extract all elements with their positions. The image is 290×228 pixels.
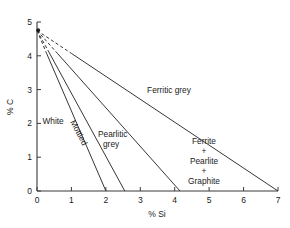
y-tick-label-3: 3 — [27, 85, 32, 95]
y-tick-label-1: 1 — [27, 152, 32, 162]
region-label-pearlite: Pearlite — [190, 156, 219, 166]
y-axis-title: % C — [5, 99, 15, 115]
y-axis-ticks — [37, 22, 41, 191]
x-tick-label-1: 1 — [69, 195, 74, 205]
region-label-mottled: Mottled — [68, 118, 90, 147]
region-label-pearlitic-grey-line1: Pearlitic — [98, 129, 128, 139]
region-label-white: White — [43, 116, 65, 126]
boundary-line-ferritic-outer — [71, 53, 278, 191]
x-tick-label-4: 4 — [172, 195, 177, 205]
region-label-ferrite: Ferrite — [192, 136, 216, 146]
boundary-dash-pearlitic-ferritic — [37, 31, 58, 54]
x-tick-label-6: 6 — [241, 195, 246, 205]
x-tick-label-7: 7 — [276, 195, 281, 205]
chart-plot-area: 0 1 2 3 4 5 0 1 2 3 4 5 6 7 % Si % C — [0, 0, 290, 228]
x-tick-label-2: 2 — [104, 195, 109, 205]
boundary-dash-mottled-pearlitic — [37, 31, 49, 54]
x-axis-ticks — [37, 187, 278, 191]
region-label-pearlitic-grey-line2: grey — [103, 139, 120, 149]
region-label-plus-1: + — [202, 146, 207, 156]
x-tick-label-5: 5 — [207, 195, 212, 205]
y-tick-label-5: 5 — [27, 17, 32, 27]
region-label-graphite: Graphite — [188, 176, 220, 186]
y-tick-label-0: 0 — [27, 186, 32, 196]
x-tick-label-0: 0 — [35, 195, 40, 205]
region-label-plus-2: + — [202, 166, 207, 176]
y-tick-label-4: 4 — [27, 51, 32, 61]
region-label-ferritic-grey: Ferritic grey — [147, 85, 192, 95]
convergence-point-marker — [36, 28, 40, 32]
cast-iron-structure-chart: 0 1 2 3 4 5 0 1 2 3 4 5 6 7 % Si % C — [0, 0, 290, 228]
boundary-lines-solid — [47, 53, 278, 191]
x-axis-tick-labels: 0 1 2 3 4 5 6 7 — [35, 195, 281, 205]
x-tick-label-3: 3 — [138, 195, 143, 205]
boundary-lines-dashed — [37, 31, 71, 54]
x-axis-title: % Si — [148, 209, 166, 219]
region-labels: White Mottled Pearlitic grey Ferritic gr… — [43, 85, 221, 186]
y-tick-label-2: 2 — [27, 118, 32, 128]
y-axis-tick-labels: 0 1 2 3 4 5 — [27, 17, 32, 196]
